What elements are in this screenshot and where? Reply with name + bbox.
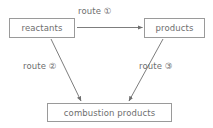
node-combustion-products-label: combustion products <box>64 108 155 118</box>
node-products-label: products <box>156 23 194 33</box>
edge-label-route-3: route ③ <box>139 61 172 71</box>
edge-label-route-1: route ① <box>78 6 111 16</box>
node-combustion-products: combustion products <box>47 103 172 122</box>
node-products: products <box>144 18 205 38</box>
edge-label-route-2: route ② <box>23 61 56 71</box>
node-reactants: reactants <box>9 18 75 38</box>
reaction-route-diagram: reactants products combustion products r… <box>0 0 213 128</box>
node-reactants-label: reactants <box>21 23 62 33</box>
